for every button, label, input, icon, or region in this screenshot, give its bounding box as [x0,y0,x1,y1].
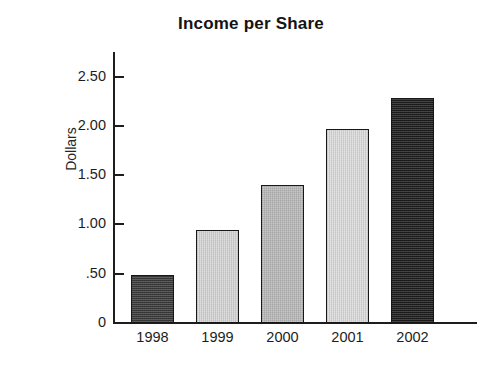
y-tick-label: 0 [46,315,106,330]
x-tick-label-2001: 2001 [315,328,380,347]
y-tick-label: 2.50 [46,69,106,84]
x-tick-label-2000: 2000 [250,328,315,347]
bar-2001 [326,129,369,323]
x-tick-label-1998: 1998 [120,328,185,347]
y-tick-label: 2.00 [46,118,106,133]
bars-layer [113,52,477,323]
y-tick-label: .50 [46,266,106,281]
bar-2000 [261,185,304,323]
y-tick-label: 1.00 [46,216,106,231]
y-tick-label: 1.50 [46,167,106,182]
x-tick-label-2002: 2002 [380,328,445,347]
bar-chart-figure: Income per Share Dollars 2.502.001.501.0… [0,0,502,367]
bar-1998 [131,275,174,323]
x-axis-tick-labels: 19981999200020012002 [113,328,477,356]
bar-2002 [391,98,434,323]
x-tick-label-1999: 1999 [185,328,250,347]
bar-1999 [196,230,239,323]
y-axis-tick-labels: 2.502.001.501.00.500 [38,0,106,367]
